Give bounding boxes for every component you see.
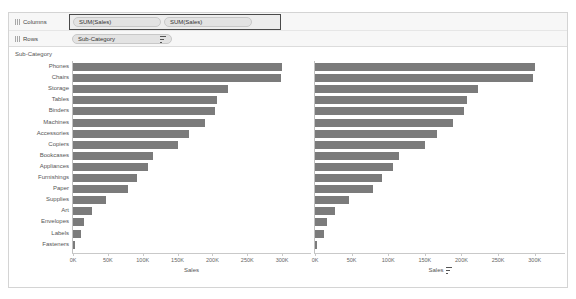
chart-pane-right[interactable] (314, 61, 565, 253)
pill-sum-sales-1[interactable]: SUM(Sales) (73, 17, 161, 27)
x-tick (143, 253, 144, 256)
sort-descending-icon[interactable] (160, 36, 166, 43)
x-tick-label: 200K (206, 257, 219, 263)
rows-shelf-dropzone[interactable]: Sub-Category (69, 31, 567, 48)
bar-phones[interactable] (315, 63, 535, 71)
x-axis-right[interactable]: Sales 0K50K100K150K200K250K300K (314, 253, 565, 287)
x-tick (425, 253, 426, 256)
pill-sum-sales-2-label: SUM(Sales) (170, 19, 202, 25)
bar-copiers[interactable] (315, 141, 425, 149)
x-tick-label: 300K (276, 257, 289, 263)
x-tick (388, 253, 389, 256)
tableau-worksheet: Columns SUM(Sales) SUM(Sales) Rows Sub-C… (8, 12, 568, 288)
row-header-tables[interactable]: Tables (52, 95, 69, 103)
x-tick-label: 50K (103, 257, 113, 263)
bar-bookcases[interactable] (73, 152, 153, 160)
row-header-chairs[interactable]: Chairs (52, 73, 69, 81)
bar-furnishings[interactable] (73, 174, 137, 182)
x-tick-label: 0K (312, 257, 319, 263)
x-tick-label: 300K (528, 257, 541, 263)
row-header-bookcases[interactable]: Bookcases (40, 151, 69, 159)
row-header-fasteners[interactable]: Fasteners (42, 240, 69, 248)
bar-appliances[interactable] (73, 163, 148, 171)
pill-sum-sales-2[interactable]: SUM(Sales) (164, 17, 252, 27)
row-header-accessories[interactable]: Accessories (37, 129, 69, 137)
bar-fasteners[interactable] (73, 241, 75, 249)
bar-phones[interactable] (73, 63, 282, 71)
row-header-labels[interactable]: Labels (51, 229, 69, 237)
bar-binders[interactable] (315, 107, 464, 115)
row-header-title: Sub-Category (15, 51, 52, 57)
bar-paper[interactable] (73, 185, 128, 193)
rows-label-text: Rows (23, 36, 38, 42)
row-header-phones[interactable]: Phones (49, 62, 69, 70)
columns-shelf-row: Columns SUM(Sales) SUM(Sales) (9, 13, 567, 30)
bar-binders[interactable] (73, 107, 215, 115)
bar-tables[interactable] (315, 96, 467, 104)
bar-bookcases[interactable] (315, 152, 399, 160)
x-axis-left[interactable]: Sales 0K50K100K150K200K250K300K (72, 253, 311, 287)
bar-furnishings[interactable] (315, 174, 382, 182)
bar-copiers[interactable] (73, 141, 178, 149)
columns-shelf-label: Columns (9, 19, 69, 25)
bar-paper[interactable] (315, 185, 373, 193)
row-header-paper[interactable]: Paper (53, 184, 69, 192)
bar-art[interactable] (315, 207, 335, 215)
x-tick (73, 253, 74, 256)
bar-envelopes[interactable] (315, 218, 327, 226)
x-tick (178, 253, 179, 256)
columns-shelf-dropzone[interactable]: SUM(Sales) SUM(Sales) (69, 14, 281, 30)
x-tick (535, 253, 536, 256)
chart-panes: PhonesChairsStorageTablesBindersMachines… (9, 61, 567, 287)
bar-labels[interactable] (73, 230, 81, 238)
row-header-binders[interactable]: Binders (49, 106, 69, 114)
pill-sum-sales-1-label: SUM(Sales) (79, 19, 111, 25)
row-header-storage[interactable]: Storage (48, 84, 69, 92)
grip-icon (15, 19, 20, 25)
row-header-machines[interactable]: Machines (43, 118, 69, 126)
bar-fasteners[interactable] (315, 241, 317, 249)
rows-shelf-label: Rows (9, 36, 69, 42)
x-tick (282, 253, 283, 256)
bar-chairs[interactable] (73, 74, 281, 82)
grip-icon (15, 36, 20, 42)
bar-chairs[interactable] (315, 74, 533, 82)
bar-envelopes[interactable] (73, 218, 84, 226)
bar-storage[interactable] (73, 85, 228, 93)
pill-sub-category-label: Sub-Category (78, 36, 115, 42)
x-tick-label: 250K (492, 257, 505, 263)
sort-descending-icon[interactable] (446, 267, 451, 273)
row-header-envelopes[interactable]: Envelopes (41, 217, 69, 225)
x-tick (212, 253, 213, 256)
bar-tables[interactable] (73, 96, 217, 104)
bar-storage[interactable] (315, 85, 478, 93)
bar-supplies[interactable] (73, 196, 106, 204)
bar-labels[interactable] (315, 230, 324, 238)
bar-art[interactable] (73, 207, 92, 215)
x-tick (315, 253, 316, 256)
bar-accessories[interactable] (315, 130, 437, 138)
row-header-furnishings[interactable]: Furnishings (38, 173, 69, 181)
bar-machines[interactable] (73, 119, 205, 127)
bar-appliances[interactable] (315, 163, 393, 171)
row-header-copiers[interactable]: Copiers (48, 140, 69, 148)
x-tick-label: 150K (418, 257, 431, 263)
x-tick (498, 253, 499, 256)
x-axis-right-title-text: Sales (428, 267, 443, 273)
row-header-supplies[interactable]: Supplies (46, 195, 69, 203)
columns-label-text: Columns (23, 19, 47, 25)
row-header-art[interactable]: Art (61, 206, 69, 214)
rows-shelf-row: Rows Sub-Category (9, 30, 567, 47)
x-tick-label: 100K (136, 257, 149, 263)
x-tick (352, 253, 353, 256)
row-header-appliances[interactable]: Appliances (40, 162, 69, 170)
bar-accessories[interactable] (73, 130, 189, 138)
bar-supplies[interactable] (315, 196, 349, 204)
x-tick (461, 253, 462, 256)
bar-machines[interactable] (315, 119, 453, 127)
shelf-area: Columns SUM(Sales) SUM(Sales) Rows Sub-C… (9, 13, 567, 47)
chart-pane-left[interactable] (72, 61, 311, 253)
pill-sub-category[interactable]: Sub-Category (72, 34, 172, 44)
worksheet-view: Sub-Category PhonesChairsStorageTablesBi… (9, 47, 567, 287)
x-tick (247, 253, 248, 256)
